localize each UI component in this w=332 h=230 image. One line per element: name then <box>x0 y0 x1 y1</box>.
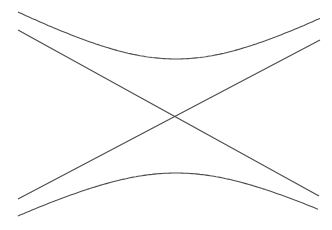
diagram-canvas <box>0 0 332 230</box>
hyperbola-diagram <box>0 0 332 230</box>
lower-branch <box>18 173 318 216</box>
asymptote-descending <box>18 30 319 196</box>
upper-branch <box>18 12 320 59</box>
asymptote-ascending <box>18 40 320 199</box>
